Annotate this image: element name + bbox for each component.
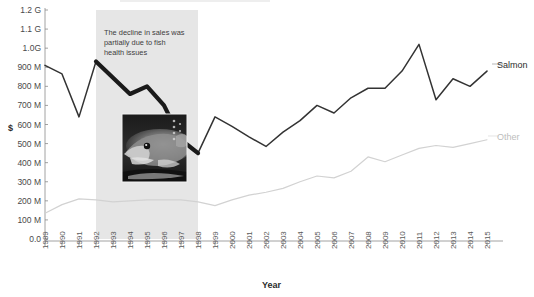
x-axis-tick-label: 2003 — [279, 231, 288, 249]
fish-photo — [122, 114, 194, 182]
y-axis-tick-label: 1.0G — [23, 43, 41, 53]
x-axis-tick-label: 1992 — [92, 231, 101, 249]
x-axis-tick-label: 2009 — [381, 231, 390, 249]
x-axis-tick-label: 2004 — [296, 231, 305, 249]
top-cut-artifact — [120, 0, 270, 2]
x-axis-tick-label: 2010 — [398, 231, 407, 249]
annotation-line-3: health issues — [104, 48, 147, 57]
x-axis-tick-label: 1996 — [160, 231, 169, 249]
chart-background — [0, 0, 534, 297]
x-axis-tick-label: 1997 — [177, 231, 186, 249]
x-axis-tick-label: 1995 — [143, 231, 152, 249]
y-axis-tick-label: 800 M — [17, 81, 41, 91]
x-axis-tick-label: 2015 — [483, 231, 492, 249]
x-axis-title: Year — [262, 280, 282, 290]
y-axis-tick-label: 500 M — [17, 139, 41, 149]
x-axis-tick-label: 1998 — [194, 231, 203, 249]
line-chart: 1.2 G1.1 G1.0G900 M800 M700 M600 M500 M4… — [0, 0, 534, 297]
y-axis-tick-label: 100 M — [17, 215, 41, 225]
x-axis-tick-label: 2013 — [449, 231, 458, 249]
x-axis-tick-label: 2000 — [228, 231, 237, 249]
x-axis-tick-label: 2007 — [347, 231, 356, 249]
x-axis-tick-label: 1999 — [211, 231, 220, 249]
x-axis-tick-label: 2008 — [364, 231, 373, 249]
chart-container: 1.2 G1.1 G1.0G900 M800 M700 M600 M500 M4… — [0, 0, 534, 297]
y-axis-tick-label: 1.1 G — [20, 24, 41, 34]
x-axis-tick-label: 2014 — [466, 231, 475, 249]
y-axis-tick-label: 700 M — [17, 100, 41, 110]
x-axis-tick-label: 1990 — [58, 231, 67, 249]
annotation-line-1: The decline in sales was — [104, 28, 185, 37]
annotation-line-2: partially due to fish — [104, 38, 166, 47]
y-axis-tick-label: 300 M — [17, 177, 41, 187]
x-axis-tick-label: 1991 — [75, 231, 84, 249]
x-axis-tick-label: 2005 — [313, 231, 322, 249]
series-label-other: Other — [497, 132, 520, 142]
x-axis-tick-label: 1993 — [109, 231, 118, 249]
series-label-salmon-group: Salmon — [492, 60, 528, 70]
x-axis-tick-label: 2012 — [432, 231, 441, 249]
y-axis-tick-label: 200 M — [17, 196, 41, 206]
y-axis-tick-label: 400 M — [17, 158, 41, 168]
x-axis-tick-label: 2011 — [415, 231, 424, 249]
x-axis-tick-label: 1994 — [126, 231, 135, 249]
y-axis-tick-label: 0.0 — [29, 234, 41, 244]
x-axis-tick-label: 2001 — [245, 231, 254, 249]
y-axis-tick-label: 900 M — [17, 62, 41, 72]
y-axis-tick-label: 600 M — [17, 120, 41, 130]
x-axis-tick-label: 1989 — [41, 231, 50, 249]
x-axis-tick-label: 2006 — [330, 231, 339, 249]
series-label-salmon: Salmon — [497, 60, 528, 70]
y-axis-tick-label: 1.2 G — [20, 5, 41, 15]
x-axis-tick-label: 2002 — [262, 231, 271, 249]
y-axis-title: $ — [8, 123, 13, 133]
